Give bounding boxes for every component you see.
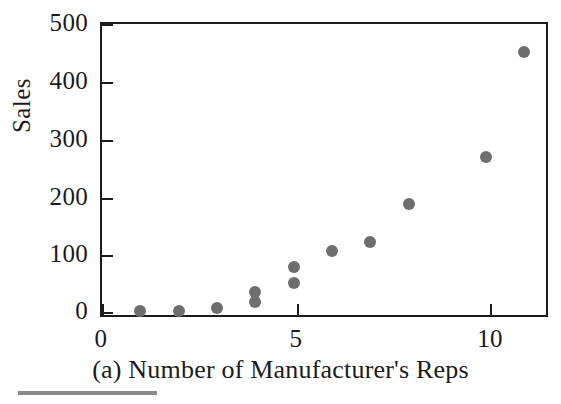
plot-area — [100, 22, 548, 317]
y-tick-200 — [102, 198, 113, 200]
page-rule — [18, 391, 157, 395]
data-point — [518, 46, 530, 58]
y-tick-label: 400 — [0, 68, 88, 93]
data-point — [211, 302, 223, 314]
scatter-plot-figure: Sales 500 400 300 200 100 0 0 5 10 (a) N… — [0, 0, 561, 404]
y-tick-300 — [102, 140, 113, 142]
y-tick-400 — [102, 82, 113, 84]
data-point — [364, 236, 376, 248]
data-point — [403, 198, 415, 210]
x-tick-0 — [102, 304, 104, 315]
data-point — [134, 305, 146, 317]
x-tick-label: 10 — [477, 326, 503, 351]
x-tick-label: 0 — [95, 326, 108, 351]
y-tick-label: 200 — [0, 184, 88, 209]
data-point — [173, 305, 185, 317]
data-point — [480, 151, 492, 163]
y-tick-100 — [102, 255, 113, 257]
y-tick-label: 0 — [0, 298, 88, 323]
y-tick-500 — [102, 24, 113, 26]
x-tick-5 — [297, 304, 299, 315]
x-tick-10 — [490, 304, 492, 315]
y-tick-label: 100 — [0, 241, 88, 266]
data-point — [326, 245, 338, 257]
data-point — [288, 277, 300, 289]
y-tick-label: 300 — [0, 126, 88, 151]
y-tick-label: 500 — [0, 10, 88, 35]
figure-caption: (a) Number of Manufacturer's Reps — [0, 355, 561, 385]
data-point — [288, 261, 300, 273]
data-point — [249, 296, 261, 308]
x-tick-label: 5 — [290, 326, 303, 351]
